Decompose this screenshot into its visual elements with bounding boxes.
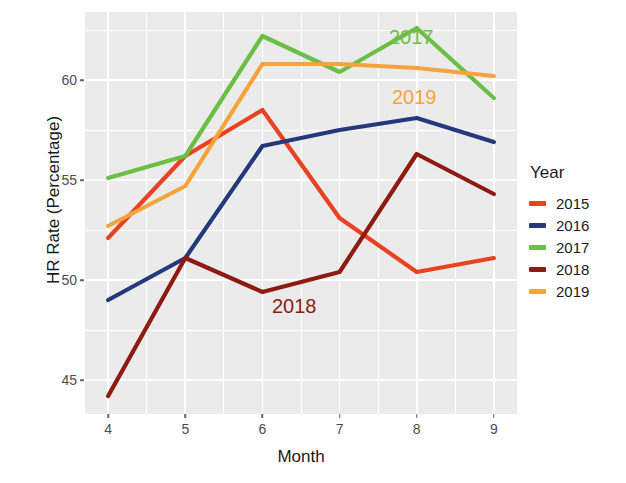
y-tick-label: 45 bbox=[61, 372, 77, 388]
legend: Year 20152016201720182019 bbox=[529, 163, 621, 302]
y-tick-mark bbox=[80, 379, 84, 381]
legend-key-swatch bbox=[529, 267, 546, 272]
x-tick-mark bbox=[416, 414, 418, 418]
x-tick-label: 4 bbox=[104, 421, 112, 437]
legend-item-2015[interactable]: 2015 bbox=[529, 192, 621, 214]
x-tick-mark bbox=[185, 414, 187, 418]
series-line-2018 bbox=[108, 154, 494, 396]
legend-title: Year bbox=[530, 163, 621, 183]
legend-item-label: 2018 bbox=[556, 261, 589, 278]
legend-key-swatch bbox=[529, 223, 546, 228]
y-tick-mark bbox=[80, 279, 84, 281]
y-tick-mark bbox=[80, 179, 84, 181]
y-tick-mark bbox=[80, 79, 84, 81]
x-tick-label: 5 bbox=[181, 421, 189, 437]
legend-key-swatch bbox=[529, 289, 546, 294]
series-annotation-2019: 2019 bbox=[392, 86, 437, 109]
legend-key-swatch bbox=[529, 245, 546, 250]
x-tick-mark bbox=[339, 414, 341, 418]
y-axis-title: HR Rate (Percentage) bbox=[44, 70, 64, 330]
series-line-2015 bbox=[108, 110, 494, 272]
legend-item-label: 2015 bbox=[556, 195, 589, 212]
x-axis-title: Month bbox=[85, 447, 517, 467]
series-lines-layer bbox=[85, 12, 517, 414]
x-tick-label: 8 bbox=[413, 421, 421, 437]
legend-item-2018[interactable]: 2018 bbox=[529, 258, 621, 280]
x-tick-label: 6 bbox=[259, 421, 267, 437]
legend-item-label: 2016 bbox=[556, 217, 589, 234]
series-annotation-2018: 2018 bbox=[272, 295, 317, 318]
x-tick-label: 9 bbox=[490, 421, 498, 437]
series-line-2016 bbox=[108, 118, 494, 300]
legend-item-2019[interactable]: 2019 bbox=[529, 280, 621, 302]
legend-item-label: 2017 bbox=[556, 239, 589, 256]
x-tick-mark bbox=[262, 414, 264, 418]
legend-key-swatch bbox=[529, 201, 546, 206]
x-tick-mark bbox=[107, 414, 109, 418]
x-tick-mark bbox=[493, 414, 495, 418]
legend-item-2017[interactable]: 2017 bbox=[529, 236, 621, 258]
legend-items: 20152016201720182019 bbox=[529, 192, 621, 302]
x-tick-label: 7 bbox=[336, 421, 344, 437]
legend-item-label: 2019 bbox=[556, 283, 589, 300]
series-annotation-2017: 2017 bbox=[389, 26, 434, 49]
legend-item-2016[interactable]: 2016 bbox=[529, 214, 621, 236]
line-chart: 45505560 456789 HR Rate (Percentage) Mon… bbox=[0, 0, 626, 483]
